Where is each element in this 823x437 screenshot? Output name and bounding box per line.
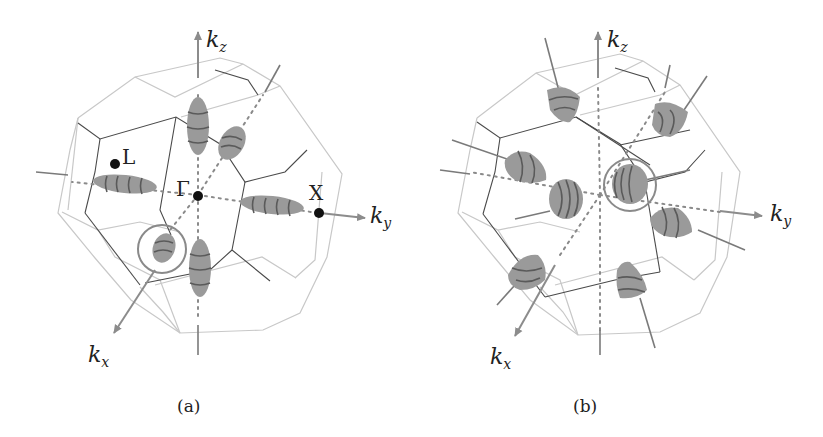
pocket-bottom-right-b	[616, 262, 647, 299]
pocket-center-left-b	[549, 179, 583, 219]
brillouin-zone-figure: L Γ X kz ky kx (a)	[0, 0, 823, 437]
point-L-marker	[110, 159, 120, 169]
pocket-right-b	[650, 207, 692, 238]
ky-label-a: ky	[370, 203, 392, 231]
pocket-right-a	[239, 193, 305, 218]
panel-b: kz ky kx (b)	[440, 27, 792, 416]
ky-label-b: ky	[770, 201, 792, 229]
point-gamma-marker	[193, 191, 203, 201]
pocket-bottom-a	[189, 239, 211, 297]
pocket-left-b	[505, 151, 546, 183]
panel-a: L Γ X kz ky kx (a)	[36, 27, 392, 416]
pocket-circled-b	[612, 164, 648, 204]
pocket-left-a	[92, 172, 158, 197]
kz-label-a: kz	[206, 27, 227, 55]
point-X-marker	[314, 208, 324, 218]
kx-label-a: kx	[88, 342, 109, 370]
pocket-bottom-left-b	[508, 255, 546, 290]
pocket-axis-lines-b	[440, 38, 745, 355]
pocket-circled-a	[149, 230, 180, 266]
point-gamma-label: Γ	[176, 177, 190, 201]
point-X-label: X	[309, 181, 324, 205]
ky-axis-arrow-b	[720, 211, 762, 216]
kx-axis-arrow-a	[114, 270, 155, 333]
pocket-top-a	[187, 97, 209, 155]
ky-axis-arrow-a	[320, 213, 365, 218]
caption-a: (a)	[177, 396, 200, 416]
point-L-label: L	[122, 145, 135, 169]
kz-label-b: kz	[607, 27, 628, 55]
kx-label-b: kx	[490, 344, 511, 372]
caption-b: (b)	[573, 396, 597, 416]
